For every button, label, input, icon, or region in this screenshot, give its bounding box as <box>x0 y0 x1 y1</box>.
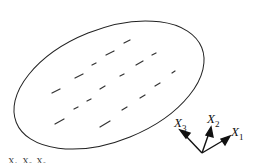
diagram-canvas <box>0 0 253 163</box>
inclusion-dashes <box>52 40 175 127</box>
axis-label-x2: X2 <box>207 112 219 129</box>
axis-label-x1: X1 <box>231 125 243 142</box>
ellipse-outline <box>0 0 223 163</box>
caption-cutoff: X₁, X₂, X₃ ... <box>8 156 55 163</box>
axis-label-x3: X3 <box>174 116 186 133</box>
axis-arrows <box>180 127 230 153</box>
